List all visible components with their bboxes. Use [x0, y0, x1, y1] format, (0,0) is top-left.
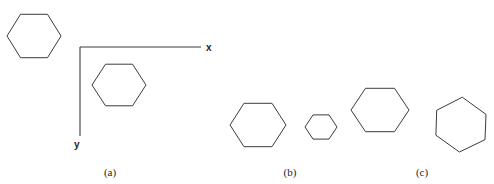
panel-label-a: (a) — [104, 166, 117, 179]
y-axis-label: y — [74, 139, 80, 150]
x-axis-label: x — [206, 42, 212, 53]
panel-label-b: (b) — [284, 166, 297, 179]
panel-label-c: (c) — [416, 166, 429, 179]
figure-background — [0, 0, 494, 184]
figure-root: x y (a) (b) (c) — [0, 0, 494, 184]
figure-canvas: x y (a) (b) (c) — [0, 0, 494, 184]
